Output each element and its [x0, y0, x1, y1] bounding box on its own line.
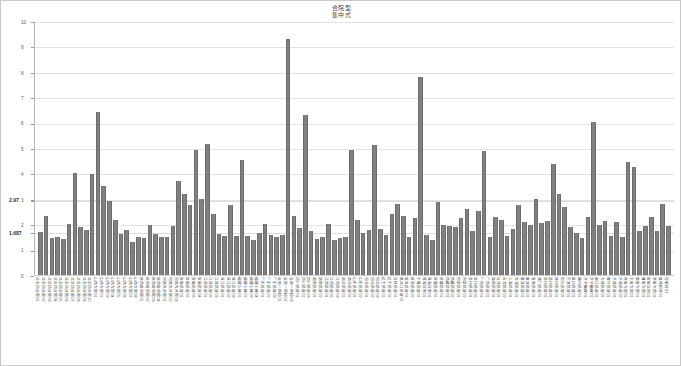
x-axis-tick-label: 江苏民居02	[208, 277, 212, 298]
x-axis-tick-label: 湖北民居01	[341, 277, 345, 298]
bar	[142, 238, 147, 276]
x-axis-tick-label: 香港民居01	[531, 277, 535, 298]
bar	[453, 227, 458, 276]
x-axis-tick-label: 台湾民居01	[496, 277, 500, 298]
bar	[73, 173, 78, 276]
bar	[459, 218, 464, 276]
x-axis-tick-label: 福建土楼04	[254, 277, 258, 298]
bar	[580, 238, 585, 276]
bar	[562, 207, 567, 276]
bar	[476, 211, 481, 276]
bar	[349, 150, 354, 276]
x-axis-tick-label: 山西大院04	[110, 277, 114, 298]
x-axis-tick-label: 北京四合院03	[47, 277, 51, 302]
x-axis-tick-label: 新疆民居02	[439, 277, 443, 298]
x-axis-tick-label: 云南一颗印03	[289, 277, 293, 302]
bar	[315, 239, 320, 276]
bar	[522, 222, 527, 276]
bar	[222, 236, 227, 276]
bar	[55, 237, 60, 276]
x-axis-tick-label: 江苏民居01	[203, 277, 207, 298]
bar	[124, 230, 129, 276]
x-axis-tick-label: 山西大院06	[122, 277, 126, 298]
x-axis-tick-label: 云南一颗印01	[277, 277, 281, 302]
bar	[372, 145, 377, 276]
x-axis-tick-label: 安徽民居03	[191, 277, 195, 298]
x-axis-tick-label: 北京四合院05	[58, 277, 62, 302]
bar	[516, 205, 521, 276]
x-axis-tick-label: 黑龙江民居01	[399, 277, 403, 302]
bar	[545, 221, 550, 276]
bar	[211, 214, 216, 276]
x-axis-tick-label: 山西大院08	[133, 277, 137, 298]
x-axis-tick-label: 广西民居01	[479, 277, 483, 298]
x-axis-tick-label: 西藏民居02	[450, 277, 454, 298]
x-axis-tick-label: 台湾民居02	[502, 277, 506, 298]
bar	[171, 226, 176, 276]
bar	[136, 237, 141, 276]
bar	[240, 160, 245, 276]
bar	[436, 202, 441, 276]
bar	[568, 227, 573, 276]
bar	[637, 231, 642, 276]
bar	[263, 224, 268, 276]
x-axis-tick-label: 泉州民居01	[571, 277, 575, 298]
x-axis-tick-label: 福建土楼01	[237, 277, 241, 298]
bar	[499, 220, 504, 276]
x-axis-tick-label: 河北民居03	[375, 277, 379, 298]
bar	[413, 218, 418, 276]
x-axis-tick-label: 李家大院01	[652, 277, 656, 298]
y-axis-tick-mark	[31, 124, 34, 125]
x-axis-tick-label: 绍兴民居01	[560, 277, 564, 298]
x-axis-tick-label: 北京四合院08	[76, 277, 80, 302]
x-axis-tick-label: 潮州民居01	[577, 277, 581, 298]
bar	[378, 229, 383, 276]
x-axis-tick-label: 北京四合院04	[53, 277, 57, 302]
bar	[482, 151, 487, 276]
x-axis-tick-label: 甘肃民居02	[410, 277, 414, 298]
plot-area	[34, 22, 674, 276]
gridline	[34, 149, 674, 150]
x-axis-tick-label: 开平碉楼01	[583, 277, 587, 298]
bar	[632, 167, 637, 276]
y-axis-line	[34, 22, 35, 276]
bar	[165, 237, 170, 276]
bar	[591, 122, 596, 276]
y-axis-tick-mark	[31, 73, 34, 74]
bar	[441, 225, 446, 276]
x-axis-tick-label: 澳门民居01	[537, 277, 541, 298]
x-axis-tick-label: 福建土楼02	[243, 277, 247, 298]
x-axis-tick-label: 贵州民居02	[473, 277, 477, 298]
bar	[101, 186, 106, 276]
bar	[280, 235, 285, 276]
x-axis-tick-label: 湖北民居02	[347, 277, 351, 298]
bar	[418, 77, 423, 276]
bar	[539, 223, 544, 276]
y-axis-tick-mark	[31, 201, 34, 202]
bar	[257, 233, 262, 276]
bar	[355, 220, 360, 276]
gridline	[34, 124, 674, 125]
y-axis-tick-mark	[31, 47, 34, 48]
x-axis-tick-label: 甘肃民居01	[404, 277, 408, 298]
x-axis-tick-label: 重庆民居01	[520, 277, 524, 298]
bar	[620, 237, 625, 276]
x-axis-tick-label: 海南民居01	[491, 277, 495, 298]
bar	[528, 225, 533, 276]
bar	[488, 237, 493, 276]
bar	[447, 226, 452, 276]
bar	[626, 162, 631, 276]
x-axis-tick-label: 贵州民居01	[468, 277, 472, 298]
y-axis-tick-mark	[31, 233, 34, 234]
bar	[113, 220, 118, 276]
x-axis-tick-label: 扬州民居01	[554, 277, 558, 298]
bar	[655, 231, 660, 276]
x-axis-tick-label: 辽宁民居01	[381, 277, 385, 298]
x-axis-tick-label: 陕西窑洞院02	[145, 277, 149, 302]
x-axis-tick-label: 山西大院05	[116, 277, 120, 298]
x-axis-tick-label: 宁夏民居01	[416, 277, 420, 298]
x-axis-tick-label: 河北民居01	[364, 277, 368, 298]
bar	[343, 237, 348, 276]
bar	[199, 199, 204, 276]
bar	[660, 204, 665, 276]
